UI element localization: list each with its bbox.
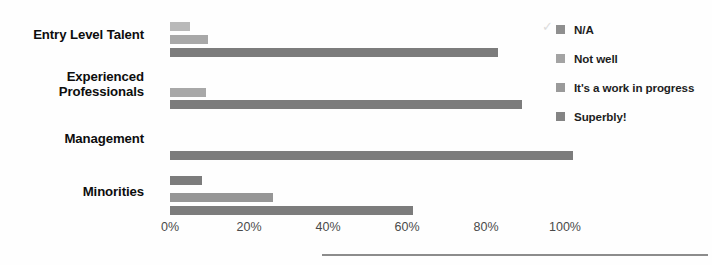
plot-area [170, 0, 590, 216]
axis-tick-label: 20% [236, 220, 261, 234]
chart-legend: ✓N/ANot wellIt's a work in progressSuper… [556, 22, 712, 138]
bar [170, 206, 413, 215]
category-label: Entry Level Talent [33, 28, 144, 43]
legend-item[interactable]: It's a work in progress [556, 80, 712, 94]
legend-item[interactable]: Superbly! [556, 109, 712, 123]
axis-tick-label: 0% [161, 220, 179, 234]
bar [170, 48, 498, 57]
axis-tick-label: 40% [315, 220, 340, 234]
bar-chart: Entry Level TalentExperiencedProfessiona… [0, 0, 712, 265]
axis-tick-label: 80% [473, 220, 498, 234]
axis-tick-label: 60% [394, 220, 419, 234]
category-label: Minorities [83, 185, 144, 200]
axis-tick-label: 100% [549, 220, 581, 234]
category-axis-labels: Entry Level TalentExperiencedProfessiona… [0, 0, 152, 216]
legend-label: N/A [574, 23, 594, 36]
bar [170, 151, 573, 160]
bar [170, 100, 522, 109]
legend-label: Not well [574, 52, 618, 65]
legend-label: It's a work in progress [574, 81, 694, 94]
bar [170, 193, 273, 202]
legend-swatch [556, 83, 565, 92]
check-icon: ✓ [542, 20, 553, 33]
legend-item[interactable]: Not well [556, 51, 712, 65]
bar [170, 176, 202, 185]
legend-label: Superbly! [574, 110, 627, 123]
bar [170, 35, 208, 44]
category-label: ExperiencedProfessionals [59, 70, 144, 100]
legend-swatch [556, 112, 565, 121]
bar [170, 22, 190, 31]
bottom-divider [322, 254, 708, 256]
legend-swatch [556, 54, 565, 63]
x-axis: 0%20%40%60%80%100% [170, 220, 590, 242]
legend-item[interactable]: ✓N/A [556, 22, 712, 36]
category-label: Management [64, 132, 144, 147]
bar [170, 88, 206, 97]
legend-swatch [556, 25, 565, 34]
